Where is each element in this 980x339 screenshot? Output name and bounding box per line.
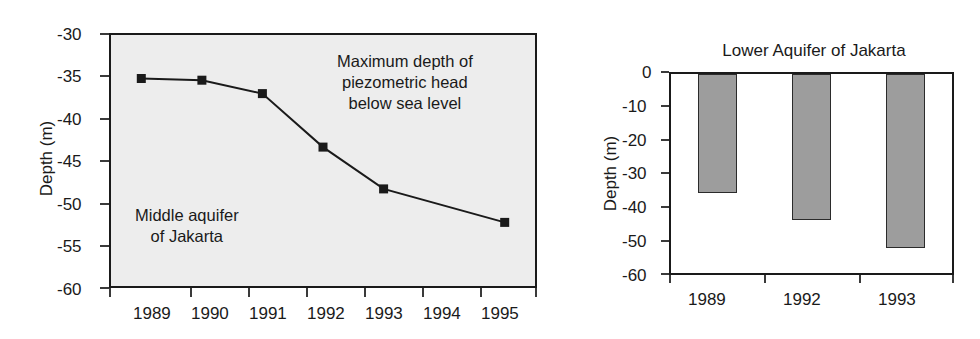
bar-1992 xyxy=(792,74,831,220)
right-chart-plot-area xyxy=(669,72,954,275)
right-chart-ytick-minus20: -20 xyxy=(622,132,647,149)
right-chart-y-axis-title: Depth (m) xyxy=(602,124,619,224)
line-chart-panel: Depth (m) -30 -35 -40 -45 -50 -55 -60 Ma… xyxy=(0,0,560,339)
left-chart-ytick-minus60: -60 xyxy=(57,281,82,298)
data-point-marker-1992 xyxy=(319,143,328,152)
data-point-marker-1990 xyxy=(197,76,206,85)
figure-root: Depth (m) -30 -35 -40 -45 -50 -55 -60 Ma… xyxy=(0,0,980,339)
right-chart-ytick-minus10: -10 xyxy=(622,98,647,115)
bar-1989 xyxy=(698,74,737,193)
left-chart-xtick-1993: 1993 xyxy=(365,305,403,322)
right-chart-ytick-minus40: -40 xyxy=(622,199,647,216)
left-chart-ytick-minus40: -40 xyxy=(57,111,82,128)
left-chart-xtick-1991: 1991 xyxy=(249,305,287,322)
bar-1993 xyxy=(886,74,925,248)
bar-chart-panel: Lower Aquifer of Jakarta Depth (m) 0 -10… xyxy=(560,0,980,339)
left-chart-xtick-1995: 1995 xyxy=(481,305,519,322)
right-chart-xtick-1993: 1993 xyxy=(878,291,916,308)
right-chart-ytick-minus50: -50 xyxy=(622,233,647,250)
right-chart-ytick-minus30: -30 xyxy=(622,165,647,182)
left-chart-xtick-1994: 1994 xyxy=(423,305,461,322)
left-chart-data-series xyxy=(111,35,535,286)
left-chart-ytick-minus45: -45 xyxy=(57,153,82,170)
left-chart-ytick-minus30: -30 xyxy=(57,26,82,43)
left-chart-plot-area: Maximum depth of piezometric head below … xyxy=(109,33,537,288)
right-chart-ytick-minus60: -60 xyxy=(622,267,647,284)
right-chart-xtick-1989: 1989 xyxy=(688,291,726,308)
left-chart-ytick-minus50: -50 xyxy=(57,196,82,213)
right-chart-xtick-1992: 1992 xyxy=(783,291,821,308)
left-chart-xtick-1990: 1990 xyxy=(191,305,229,322)
left-chart-xtick-1992: 1992 xyxy=(307,305,345,322)
data-point-marker-1991 xyxy=(258,89,267,98)
data-point-marker-1993 xyxy=(379,184,388,193)
left-chart-ytick-minus55: -55 xyxy=(57,238,82,255)
right-chart-title: Lower Aquifer of Jakarta xyxy=(669,42,959,59)
left-chart-ytick-minus35: -35 xyxy=(57,68,82,85)
right-chart-ytick-0: 0 xyxy=(642,64,651,81)
left-chart-xtick-1989: 1989 xyxy=(133,305,171,322)
data-point-marker-1989 xyxy=(137,74,146,83)
data-point-marker-1995 xyxy=(500,218,509,227)
left-chart-y-axis-title: Depth (m) xyxy=(38,109,55,209)
